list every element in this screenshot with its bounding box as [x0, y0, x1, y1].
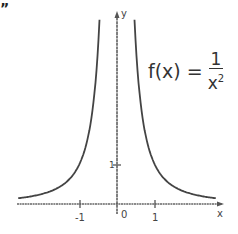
x-tick-label-1: 1 — [152, 212, 158, 223]
y-axis-label: y — [121, 8, 127, 19]
y-tick-label-1: 1 — [109, 160, 115, 170]
equation-exponent: 2 — [218, 73, 224, 84]
equation-denominator-base: x — [208, 73, 218, 93]
equation-denominator: x2 — [208, 69, 224, 93]
x-tick-label-neg1: -1 — [75, 212, 85, 223]
equation-lhs: f(x) = — [148, 60, 203, 82]
y-axis — [115, 11, 120, 214]
function-plot: -1 0 1 1 x y — [0, 0, 238, 234]
equation-fraction: 1 x2 — [208, 50, 224, 93]
equation-numerator: 1 — [209, 50, 224, 69]
curve-left-branch — [18, 20, 99, 199]
curve-right-branch — [135, 20, 216, 199]
x-axis-label: x — [217, 208, 223, 219]
x-tick-label-0: 0 — [121, 209, 127, 220]
x-axis — [17, 202, 224, 207]
function-equation: f(x) = 1 x2 — [148, 50, 224, 93]
